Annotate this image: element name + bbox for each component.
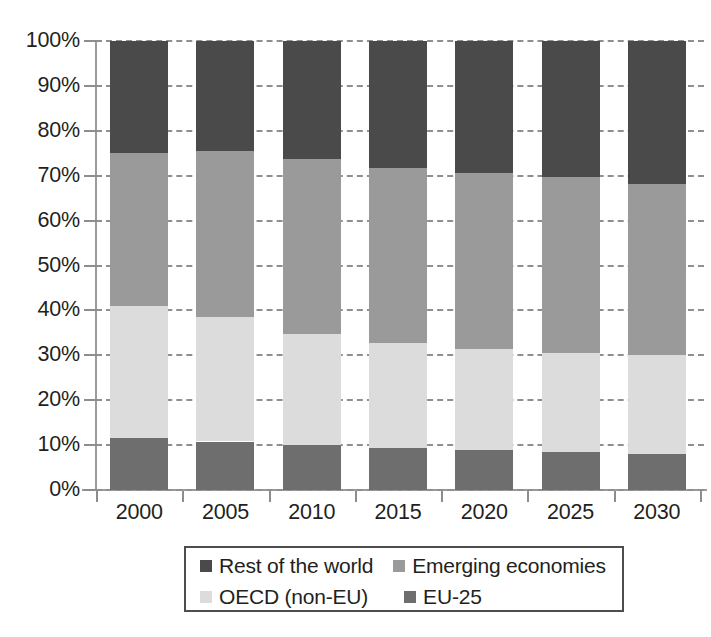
legend-label-rest-of-the-world: Rest of the world xyxy=(219,554,373,577)
legend: Rest of the world Emerging economies OEC… xyxy=(184,546,624,612)
bar-segment[interactable] xyxy=(369,343,427,448)
bar-2025[interactable] xyxy=(542,41,600,490)
x-axis-tick-label: 2015 xyxy=(355,500,441,524)
bar-segment[interactable] xyxy=(369,41,427,168)
legend-row-1: Rest of the world Emerging economies xyxy=(186,550,622,581)
bar-segment[interactable] xyxy=(542,353,600,453)
bar-segment[interactable] xyxy=(628,355,686,454)
bar-2010[interactable] xyxy=(283,41,341,490)
legend-swatch-emerging-economies xyxy=(393,560,405,572)
x-axis-tick xyxy=(700,491,702,502)
y-axis-tick xyxy=(84,444,96,446)
legend-item-oecd-non-eu[interactable]: OECD (non-EU) xyxy=(200,585,368,608)
bar-segment[interactable] xyxy=(196,317,254,441)
y-axis-tick xyxy=(84,175,96,177)
y-axis-tick xyxy=(84,489,96,491)
x-axis-tick-label: 2025 xyxy=(527,500,613,524)
bar-2015[interactable] xyxy=(369,41,427,490)
bar-segment[interactable] xyxy=(542,41,600,177)
bar-2030[interactable] xyxy=(628,41,686,490)
y-axis-tick-label: 70% xyxy=(2,165,80,187)
y-axis-tick-label: 50% xyxy=(2,255,80,277)
bar-segment[interactable] xyxy=(196,151,254,317)
legend-item-rest-of-the-world[interactable]: Rest of the world xyxy=(200,554,373,577)
y-axis-tick-label: 0% xyxy=(2,479,80,501)
y-axis-tick xyxy=(84,354,96,356)
bar-segment[interactable] xyxy=(283,41,341,159)
bar-segment[interactable] xyxy=(283,159,341,334)
legend-swatch-rest-of-the-world xyxy=(200,560,212,572)
legend-label-eu-25: EU-25 xyxy=(423,585,482,608)
y-axis-tick-label: 90% xyxy=(2,75,80,97)
bar-2020[interactable] xyxy=(455,41,513,490)
bar-segment[interactable] xyxy=(196,442,254,490)
bar-segment[interactable] xyxy=(110,41,168,153)
legend-label-oecd-non-eu: OECD (non-EU) xyxy=(219,585,368,608)
bar-segment[interactable] xyxy=(369,168,427,344)
y-axis-tick xyxy=(84,220,96,222)
bar-segment[interactable] xyxy=(455,349,513,450)
x-axis-tick-label: 2000 xyxy=(96,500,182,524)
bar-segment[interactable] xyxy=(542,177,600,352)
bar-2005[interactable] xyxy=(196,41,254,490)
y-axis-tick xyxy=(84,265,96,267)
legend-swatch-oecd-non-eu xyxy=(200,591,212,603)
x-axis-tick-label: 2010 xyxy=(269,500,355,524)
y-axis-tick xyxy=(84,40,96,42)
y-axis-tick xyxy=(84,309,96,311)
y-axis-tick xyxy=(84,399,96,401)
y-axis-tick-label: 60% xyxy=(2,210,80,232)
bar-segment[interactable] xyxy=(628,41,686,184)
y-axis-tick-label: 30% xyxy=(2,344,80,366)
bar-segment[interactable] xyxy=(542,452,600,490)
bar-segment[interactable] xyxy=(628,454,686,490)
bar-segment[interactable] xyxy=(283,445,341,490)
bar-segment[interactable] xyxy=(369,448,427,490)
bar-segment[interactable] xyxy=(455,173,513,349)
x-axis-tick-label: 2005 xyxy=(182,500,268,524)
legend-row-2: OECD (non-EU) EU-25 xyxy=(186,581,622,612)
bar-segment[interactable] xyxy=(110,153,168,306)
stacked-bar-chart: 0%10%20%30%40%50%60%70%80%90%100% 200020… xyxy=(0,0,711,637)
x-axis-tick-label: 2030 xyxy=(614,500,700,524)
legend-label-emerging-economies: Emerging economies xyxy=(412,554,606,577)
y-axis-tick-label: 100% xyxy=(2,30,80,52)
bar-segment[interactable] xyxy=(628,184,686,356)
bar-segment[interactable] xyxy=(110,306,168,438)
plot-area xyxy=(96,41,700,490)
y-axis-tick-label: 10% xyxy=(2,434,80,456)
y-axis-tick-label: 20% xyxy=(2,389,80,411)
y-axis-tick-label: 80% xyxy=(2,120,80,142)
bar-segment[interactable] xyxy=(196,41,254,151)
bar-segment[interactable] xyxy=(110,438,168,490)
y-axis-tick xyxy=(84,130,96,132)
y-axis-tick xyxy=(84,85,96,87)
bar-2000[interactable] xyxy=(110,41,168,490)
bar-segment[interactable] xyxy=(455,450,513,490)
y-axis-tick-label: 40% xyxy=(2,299,80,321)
legend-item-eu-25[interactable]: EU-25 xyxy=(404,585,482,608)
bar-segment[interactable] xyxy=(455,41,513,173)
bar-segment[interactable] xyxy=(283,334,341,445)
legend-swatch-eu-25 xyxy=(404,591,416,603)
legend-item-emerging-economies[interactable]: Emerging economies xyxy=(393,554,606,577)
x-axis-tick-label: 2020 xyxy=(441,500,527,524)
